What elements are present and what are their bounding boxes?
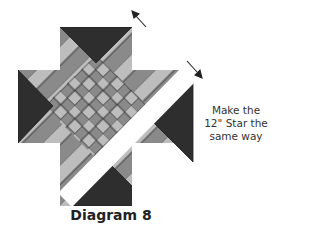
- instruction-note: Make the 12" Star the same way: [204, 104, 268, 143]
- diagram-caption: Diagram 8: [56, 207, 166, 223]
- note-line-1: Make the: [204, 104, 268, 117]
- note-line-3: same way: [204, 130, 268, 143]
- arrow-up-left-icon: [132, 11, 146, 27]
- note-line-2: 12" Star the: [204, 117, 268, 130]
